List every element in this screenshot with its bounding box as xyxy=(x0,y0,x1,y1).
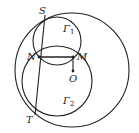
diagram-canvas: S N M O T Γ1 Γ2 xyxy=(0,0,139,133)
point-m-dot xyxy=(72,56,75,59)
geometry-figure: S N M O T Γ1 Γ2 xyxy=(0,0,139,133)
label-t: T xyxy=(26,114,34,125)
label-gamma1: Γ1 xyxy=(62,23,74,36)
label-s: S xyxy=(39,5,46,16)
point-o-dot xyxy=(72,70,75,73)
segment-st xyxy=(35,15,45,115)
label-n: N xyxy=(26,51,37,62)
point-n-dot xyxy=(38,56,41,59)
label-gamma2: Γ2 xyxy=(62,95,74,108)
label-o: O xyxy=(69,73,77,84)
label-m: M xyxy=(76,51,88,62)
